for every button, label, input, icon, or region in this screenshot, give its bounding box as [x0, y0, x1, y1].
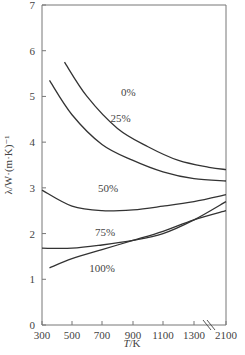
y-tick-label: 7	[30, 0, 36, 11]
curve-label: 100%	[89, 262, 115, 274]
curve-label: 75%	[95, 226, 115, 238]
y-tick-label: 6	[30, 45, 36, 57]
curve-label: 50%	[98, 182, 118, 194]
y-tick-label: 5	[30, 90, 36, 102]
y-axis-ticks: 01234567	[30, 0, 47, 331]
y-tick-label: 4	[30, 136, 36, 148]
y-tick-label: 3	[30, 182, 36, 194]
curve-50pct	[42, 190, 226, 211]
curve-label: 0%	[121, 86, 136, 98]
x-tick-label: 500	[64, 329, 81, 341]
x-tick-label: 1100	[152, 329, 174, 341]
x-tick-label: 700	[94, 329, 111, 341]
x-tick-label: 2100	[215, 329, 238, 341]
chart: 01234567 300500700900110013002100 0%25%5…	[0, 0, 245, 355]
curve-75pct	[42, 202, 226, 249]
y-tick-label: 2	[30, 228, 36, 240]
curve-100pct	[50, 211, 227, 268]
y-axis-title: λ/W·(m·K)⁻¹	[2, 135, 15, 194]
x-axis-unit: /K	[130, 337, 141, 349]
y-tick-label: 1	[30, 273, 36, 285]
curve-0pct	[65, 62, 227, 169]
x-tick-label: 1300	[183, 329, 206, 341]
x-axis-title: T/K	[123, 337, 140, 349]
x-tick-label: 300	[34, 329, 51, 341]
curve-label: 25%	[111, 112, 131, 124]
